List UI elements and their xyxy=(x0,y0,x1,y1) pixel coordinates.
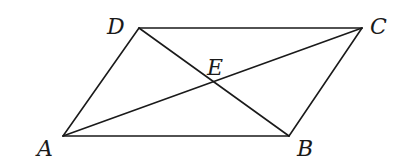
label-c: C xyxy=(370,14,387,39)
diagram-svg: A B C D E xyxy=(0,0,411,164)
diagonal-BD xyxy=(139,28,289,136)
label-d: D xyxy=(106,14,125,39)
label-a: A xyxy=(35,136,53,161)
diagonal-AC xyxy=(63,28,362,136)
label-b: B xyxy=(296,136,313,161)
label-e: E xyxy=(206,55,223,80)
labels: A B C D E xyxy=(35,14,387,161)
side-DA xyxy=(63,28,139,136)
segments xyxy=(63,28,362,136)
geometry-diagram: A B C D E xyxy=(0,0,411,164)
side-BC xyxy=(289,28,362,136)
